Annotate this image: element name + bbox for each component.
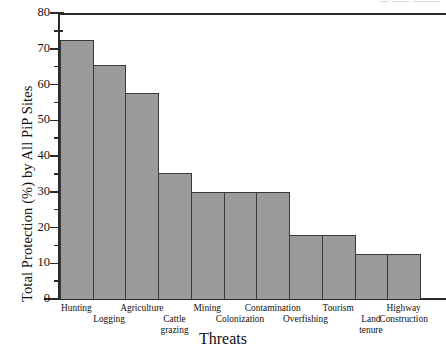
y-tick-label: 60 [10,77,50,92]
x-tick-label: Agriculture [109,303,175,314]
x-tick-label: Highway Construction [371,303,437,324]
bar-overfishing [289,235,323,299]
bar-cattle-grazing [158,173,192,299]
bar-colonization [224,192,258,299]
plot-area [60,13,420,299]
y-tick-label: 80 [10,5,50,20]
bar-chart-figure: — —— ——— Total Protection (%) by All PiP… [0,0,446,355]
bar-contamination [256,192,290,299]
y-tick-label: 30 [10,184,50,199]
y-tick-label: 40 [10,148,50,163]
y-tick-label: 70 [10,41,50,56]
clipped-header-artifact: — —— ——— [380,0,440,5]
bar-logging [93,65,127,299]
bar-highway-construction [387,254,421,299]
bar-land-tenure [355,254,389,299]
x-tick-label: Mining [174,303,240,314]
x-tick-label: Logging [76,314,142,325]
bar-mining [191,192,225,299]
x-tick-label: Contamination [240,303,306,314]
bar-hunting [60,40,94,299]
bar-series [60,13,420,299]
x-tick-label: Overfishing [272,314,338,325]
x-axis-title: Threats [0,330,446,348]
x-tick-label: Hunting [43,303,109,314]
x-tick-label: Tourism [305,303,371,314]
bar-agriculture [125,93,159,299]
y-tick-label: 50 [10,112,50,127]
bar-tourism [322,235,356,299]
x-tick-label: Colonization [207,314,273,325]
y-tick-label: 20 [10,220,50,235]
y-tick-label: 10 [10,255,50,270]
